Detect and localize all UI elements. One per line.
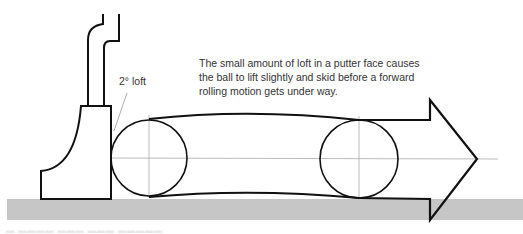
center-guide-line <box>106 158 498 159</box>
putter-shaft-inner <box>104 14 119 106</box>
cropped-figure-caption: ▬ ▬▬▬▬ ▬▬▬ ▬▬▬ ▬▬▬▬▬ <box>6 226 163 234</box>
caption-line-2: the ball to lift slightly and skid befor… <box>199 70 420 84</box>
loft-label: 2° loft <box>119 74 146 88</box>
loft-leader-line <box>114 93 127 131</box>
putter-shaft <box>88 14 103 106</box>
diagram-canvas: 2° loft The small amount of loft in a pu… <box>0 0 523 234</box>
caption-line-3: rolling motion gets under way. <box>199 84 420 98</box>
ground-surface <box>7 199 523 220</box>
caption-line-1: The small amount of loft in a putter fac… <box>199 56 420 70</box>
putter-head <box>41 106 111 199</box>
putter-roll-diagram <box>0 0 523 234</box>
caption-text: The small amount of loft in a putter fac… <box>199 56 420 98</box>
